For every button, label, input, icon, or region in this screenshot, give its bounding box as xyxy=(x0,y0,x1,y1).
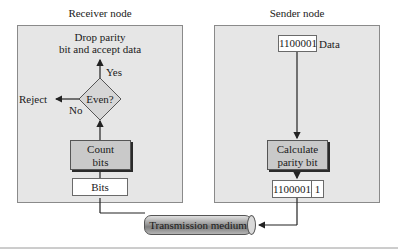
transmission-medium-end xyxy=(247,215,256,235)
calculate-parity-line2: parity bit xyxy=(268,156,327,169)
accept-data-line2: bit and accept data xyxy=(40,43,160,55)
bits-box: Bits xyxy=(72,178,128,196)
count-bits-box: Count bits xyxy=(70,140,131,170)
output-frame-box: 1100001 1 xyxy=(272,180,324,198)
accept-data-label: Drop parity bit and accept data xyxy=(40,31,160,55)
yes-label: Yes xyxy=(106,66,122,78)
calculate-parity-line1: Calculate xyxy=(268,143,327,156)
output-data-cell: 1100001 xyxy=(272,180,312,198)
data-value-box: 1100001 xyxy=(278,35,317,52)
output-parity-cell: 1 xyxy=(312,180,324,198)
count-bits-line1: Count xyxy=(71,143,130,156)
accept-data-line1: Drop parity xyxy=(40,31,160,43)
even-decision-label: Even? xyxy=(80,93,120,105)
reject-label: Reject xyxy=(19,93,47,105)
transmission-medium: Transmission medium xyxy=(144,215,252,235)
calculate-parity-box: Calculate parity bit xyxy=(267,140,328,170)
count-bits-line2: bits xyxy=(71,156,130,169)
data-label: Data xyxy=(319,38,340,50)
no-label: No xyxy=(69,104,82,116)
